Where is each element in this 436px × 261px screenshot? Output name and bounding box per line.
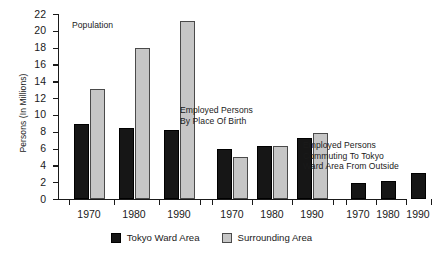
bar-tokyo-ward-area xyxy=(74,124,89,199)
x-tick xyxy=(292,199,293,205)
y-tick-label: 22 xyxy=(26,8,46,21)
x-tick-label: 1970 xyxy=(212,208,252,221)
x-tick xyxy=(346,199,347,205)
y-tick: 2 xyxy=(53,182,58,183)
legend-item-tokyo-ward-area: Tokyo Ward Area xyxy=(111,232,200,243)
y-tick: 18 xyxy=(53,48,58,49)
y-tick: 12 xyxy=(53,98,58,99)
y-tick: 14 xyxy=(53,81,58,82)
bar-tokyo-ward-area xyxy=(381,181,396,200)
x-tick-label: 1990 xyxy=(159,208,199,221)
x-tick xyxy=(333,199,334,205)
x-tick xyxy=(114,199,115,205)
y-tick: 20 xyxy=(53,31,58,32)
bar-tokyo-ward-area xyxy=(164,130,179,199)
y-tick-label: 20 xyxy=(26,24,46,37)
x-axis-line xyxy=(58,199,406,200)
annotation-by-birth: Employed Persons By Place Of Birth xyxy=(180,105,253,126)
x-tick xyxy=(69,199,70,205)
legend-swatch-icon xyxy=(222,233,232,243)
legend-label: Tokyo Ward Area xyxy=(127,232,200,243)
annotation-population: Population xyxy=(72,20,113,31)
y-tick-label: 16 xyxy=(26,58,46,71)
annotation-commuting: Employed Persons Commuting To Tokyo Ward… xyxy=(303,140,399,172)
y-tick: 10 xyxy=(53,115,58,116)
y-tick-label: 2 xyxy=(26,176,46,189)
x-tick-label: 1980 xyxy=(252,208,292,221)
x-tick xyxy=(159,199,160,205)
x-tick-label: 1990 xyxy=(398,208,436,221)
bar-surrounding-area xyxy=(233,157,248,199)
y-tick: 0 xyxy=(53,199,58,200)
x-tick xyxy=(376,199,377,205)
bar-tokyo-ward-area xyxy=(217,149,232,199)
y-tick: 16 xyxy=(53,64,58,65)
x-tick-label: 1980 xyxy=(114,208,154,221)
y-tick: 8 xyxy=(53,132,58,133)
y-tick-label: 8 xyxy=(26,125,46,138)
x-tick xyxy=(252,199,253,205)
bar-tokyo-ward-area xyxy=(411,173,426,199)
bar-surrounding-area xyxy=(273,146,288,199)
bar-tokyo-ward-area xyxy=(119,128,134,199)
legend-swatch-icon xyxy=(111,233,121,243)
y-tick: 4 xyxy=(53,165,58,166)
legend-item-surrounding-area: Surrounding Area xyxy=(222,232,313,243)
bar-surrounding-area xyxy=(135,48,150,199)
y-tick-label: 0 xyxy=(26,193,46,206)
x-tick-label: 1970 xyxy=(69,208,109,221)
y-tick-label: 4 xyxy=(26,159,46,172)
y-tick: 6 xyxy=(53,149,58,150)
x-tick xyxy=(431,199,432,205)
chart-legend: Tokyo Ward AreaSurrounding Area xyxy=(0,232,423,243)
bar-tokyo-ward-area xyxy=(351,183,366,199)
y-tick-label: 10 xyxy=(26,108,46,121)
x-tick xyxy=(212,199,213,205)
y-tick-label: 12 xyxy=(26,92,46,105)
x-tick-label: 1990 xyxy=(292,208,332,221)
bar-tokyo-ward-area xyxy=(257,146,272,199)
y-tick-label: 14 xyxy=(26,75,46,88)
x-tick xyxy=(406,199,407,205)
y-tick-label: 18 xyxy=(26,41,46,54)
y-tick: 22 xyxy=(53,14,58,15)
y-axis-line xyxy=(58,14,59,199)
legend-label: Surrounding Area xyxy=(238,232,313,243)
x-tick xyxy=(200,199,201,205)
y-tick-label: 6 xyxy=(26,142,46,155)
bar-surrounding-area xyxy=(90,89,105,199)
